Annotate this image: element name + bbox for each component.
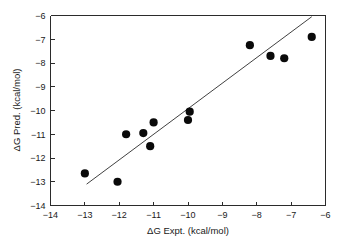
y-tick-label: −12 [30, 153, 45, 163]
y-tick-label: −14 [30, 201, 45, 211]
x-tick-label: −10 [180, 210, 195, 220]
x-axis-tick-labels: −14−13−12−11−10−9−8−7−6 [43, 210, 331, 220]
regression-line-group [87, 17, 312, 184]
y-tick-label: −13 [30, 177, 45, 187]
x-tick-label: −7 [286, 210, 296, 220]
data-point [113, 178, 121, 186]
x-tick-label: −11 [146, 210, 161, 220]
x-tick-label: −13 [77, 210, 92, 220]
y-axis-title: ΔG Pred. (kcal/mol) [11, 69, 22, 152]
data-point [139, 129, 147, 137]
data-point [186, 108, 194, 116]
y-tick-label: −8 [35, 58, 45, 68]
y-axis-tick-labels: −14−13−12−11−10−9−8−7−6 [30, 11, 45, 211]
data-point [150, 118, 158, 126]
data-point [280, 54, 288, 62]
y-tick-label: −9 [35, 82, 45, 92]
y-tick-label: −11 [31, 130, 46, 140]
data-point [246, 41, 254, 49]
data-point [146, 142, 154, 150]
y-axis-tick-marks [51, 16, 55, 206]
data-point [184, 116, 192, 124]
y-tick-label: −6 [35, 11, 45, 21]
x-tick-label: −9 [217, 210, 227, 220]
x-tick-label: −12 [112, 210, 127, 220]
scatter-plot: −14−13−12−11−10−9−8−7−6 −14−13−12−11−10−… [0, 0, 350, 240]
x-tick-label: −6 [320, 210, 330, 220]
x-axis-title: ΔG Expt. (kcal/mol) [147, 225, 229, 236]
y-tick-label: −7 [35, 35, 45, 45]
data-point [122, 130, 130, 138]
data-point [266, 52, 274, 60]
data-point [81, 169, 89, 177]
y-tick-label: −10 [30, 106, 45, 116]
x-axis-tick-marks [51, 202, 326, 206]
regression-line [87, 17, 312, 184]
x-tick-label: −8 [252, 210, 262, 220]
x-tick-label: −14 [43, 210, 58, 220]
data-point [308, 33, 316, 41]
data-points-group [81, 33, 316, 186]
figure-container: −14−13−12−11−10−9−8−7−6 −14−13−12−11−10−… [0, 0, 350, 240]
